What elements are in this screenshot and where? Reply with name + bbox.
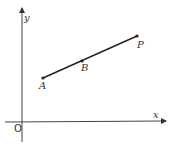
point-p bbox=[135, 34, 138, 37]
segment-ap bbox=[43, 36, 137, 78]
point-b-label: B bbox=[80, 62, 88, 73]
x-axis-label: x bbox=[153, 109, 159, 120]
origin-label: O bbox=[14, 123, 22, 134]
coordinate-diagram: y x O A B P bbox=[0, 0, 172, 144]
point-a-label: A bbox=[38, 80, 46, 91]
point-p-label: P bbox=[136, 39, 144, 50]
y-axis-label: y bbox=[23, 12, 30, 23]
x-axis bbox=[5, 121, 166, 122]
